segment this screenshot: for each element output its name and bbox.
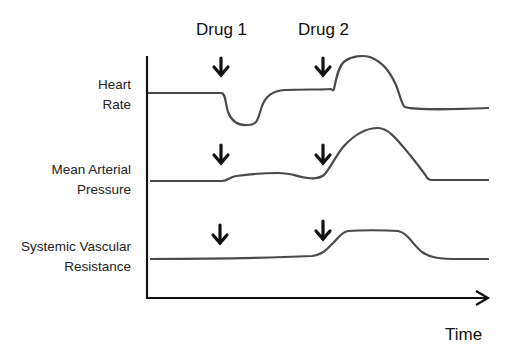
heart-rate-curve <box>148 56 489 125</box>
drug-1-arrow-map-icon <box>214 145 228 163</box>
drug-2-arrow-heart-rate-icon <box>316 58 330 75</box>
mean-arterial-pressure-curve <box>150 128 489 181</box>
x-axis-label: Time <box>445 325 482 345</box>
drug-1-arrow-heart-rate-icon <box>214 58 228 75</box>
drug-2-arrow-map-icon <box>316 145 330 163</box>
diagram-canvas <box>0 0 519 359</box>
drug-2-arrow-svr-icon <box>316 221 330 239</box>
drug-1-arrow-svr-icon <box>213 225 227 243</box>
